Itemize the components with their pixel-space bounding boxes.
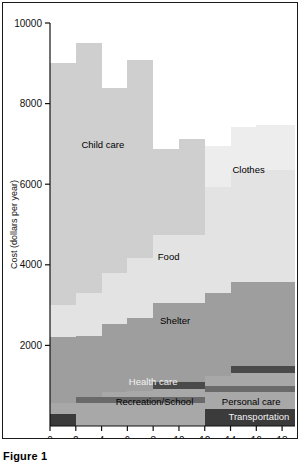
area-label: Health care <box>129 376 178 387</box>
x-tick-label: 14 <box>225 435 237 438</box>
x-tick-label: 2 <box>73 435 79 438</box>
x-tick-label: 18 <box>277 435 289 438</box>
y-tick-label: 10000 <box>14 18 42 29</box>
x-tick-label: 16 <box>251 435 263 438</box>
area-label: Child care <box>81 139 124 150</box>
figure-container: 200040006000800010000024681012141618AgeC… <box>0 0 302 476</box>
stacked-area-chart: 200040006000800010000024681012141618AgeC… <box>3 3 297 438</box>
x-tick-label: 8 <box>150 435 156 438</box>
area-label: Shelter <box>160 315 190 326</box>
y-tick-label: 2000 <box>20 340 43 351</box>
chart-frame: 200040006000800010000024681012141618AgeC… <box>2 2 298 439</box>
y-axis-title: Cost (dollars per year) <box>9 180 19 269</box>
area-label: Personal care <box>222 396 281 407</box>
x-tick-label: 6 <box>125 435 131 438</box>
x-tick-label: 10 <box>173 435 185 438</box>
y-tick-label: 4000 <box>20 259 43 270</box>
figure-caption: Figure 1 <box>3 450 47 462</box>
x-tick-label: 12 <box>199 435 211 438</box>
y-tick-label: 6000 <box>20 179 43 190</box>
x-tick-label: 4 <box>99 435 105 438</box>
area-label: Recreation/School <box>116 396 194 407</box>
area-label: Food <box>158 251 180 262</box>
area-label: Transportation <box>228 411 289 422</box>
x-tick-label: 0 <box>47 435 53 438</box>
y-tick-label: 8000 <box>20 98 43 109</box>
area-label: Clothes <box>232 164 264 175</box>
plot-areas <box>50 43 295 426</box>
